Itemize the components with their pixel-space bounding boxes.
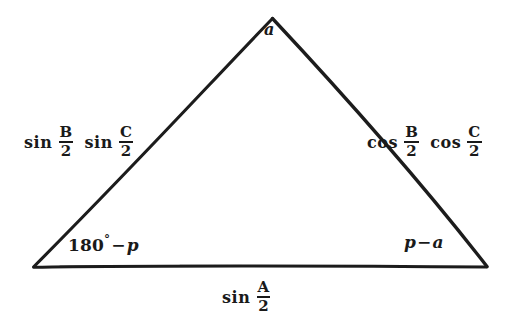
right-fraction-1-denominator: 2 [405, 144, 418, 159]
left-side-label: sin B 2 sin C 2 [24, 126, 135, 161]
apex-vertex-label: a [264, 22, 275, 38]
right-fraction-2-numerator: C [467, 125, 481, 140]
triangle-outline [0, 0, 512, 323]
angle-left-value: 180 [68, 235, 104, 255]
right-side-label: cos B 2 cos C 2 [367, 126, 484, 161]
angle-right-variable-1: p [404, 232, 416, 252]
left-fraction-1: B 2 [59, 125, 74, 160]
angle-left-operator: − [110, 235, 126, 255]
bottom-left-angle-label: 180°−p [68, 234, 139, 254]
left-function-1: sin [24, 135, 53, 151]
left-fraction-2-numerator: C [119, 125, 133, 140]
base-fraction-1-numerator: A [257, 280, 271, 295]
right-fraction-1: B 2 [404, 125, 419, 160]
base-side-label: sin A 2 [222, 281, 272, 316]
apex-label-text: a [264, 20, 275, 39]
angle-left-variable: p [127, 235, 139, 255]
left-fraction-2: C 2 [119, 125, 133, 160]
right-function-1: cos [367, 135, 398, 151]
left-fraction-2-denominator: 2 [120, 144, 133, 159]
left-fraction-1-numerator: B [59, 125, 74, 140]
base-fraction-1: A 2 [257, 280, 271, 315]
bottom-right-angle-label: p−a [404, 234, 444, 251]
base-side-expression: sin A 2 [222, 281, 272, 316]
left-fraction-1-denominator: 2 [60, 144, 73, 159]
angle-right-variable-2: a [433, 232, 444, 252]
angle-right-operator: − [416, 232, 432, 252]
diagram-canvas: a sin B 2 sin C 2 cos B 2 [0, 0, 512, 323]
right-function-2: cos [430, 135, 461, 151]
right-fraction-2: C 2 [467, 125, 481, 160]
base-function-1: sin [222, 290, 251, 306]
right-side-expression: cos B 2 cos C 2 [367, 126, 484, 161]
right-fraction-1-numerator: B [404, 125, 419, 140]
right-fraction-2-denominator: 2 [468, 144, 481, 159]
base-fraction-1-denominator: 2 [257, 299, 270, 314]
left-function-2: sin [84, 135, 113, 151]
left-side-expression: sin B 2 sin C 2 [24, 126, 135, 161]
